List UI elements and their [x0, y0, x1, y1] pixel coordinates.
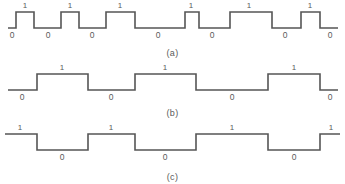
bit-label-c-1: 0: [60, 153, 65, 162]
bit-label-b-5: 1: [292, 64, 296, 72]
bit-label-a-5: 1: [118, 2, 122, 10]
bit-label-a-4: 0: [90, 31, 95, 40]
bit-label-a-8: 0: [210, 31, 215, 40]
bit-label-a-6: 0: [156, 31, 161, 40]
bit-label-a-9: 1: [247, 2, 251, 10]
bit-label-b-0: 0: [20, 93, 25, 102]
bit-label-a-0: 0: [10, 31, 15, 40]
bit-label-a-11: 1: [308, 2, 312, 10]
waveform-figure: 0101010101010 0101010 1010101 (a) (b) (c…: [0, 0, 345, 184]
bit-label-c-0: 1: [18, 124, 22, 132]
bit-label-a-1: 1: [23, 2, 27, 10]
caption-a: (a): [0, 48, 345, 58]
bit-label-c-6: 1: [329, 124, 333, 132]
bit-label-a-7: 1: [189, 2, 193, 10]
bit-label-a-10: 0: [283, 31, 288, 40]
bit-label-b-4: 0: [230, 93, 235, 102]
bit-label-b-3: 1: [163, 64, 167, 72]
bit-label-c-3: 0: [163, 153, 168, 162]
bit-label-b-2: 0: [109, 93, 114, 102]
waveform-c-path: [5, 134, 340, 150]
bit-label-b-6: 0: [328, 93, 333, 102]
bit-label-a-3: 1: [68, 2, 72, 10]
bit-label-b-1: 1: [60, 64, 64, 72]
bit-label-c-4: 1: [230, 124, 234, 132]
bit-label-a-12: 0: [328, 31, 333, 40]
waveform-a-path: [8, 12, 338, 28]
bit-label-c-2: 1: [109, 124, 113, 132]
caption-c: (c): [0, 172, 345, 182]
caption-b: (b): [0, 108, 345, 118]
waveform-a-plot: [0, 0, 345, 44]
bit-label-c-5: 0: [292, 153, 297, 162]
bit-label-a-2: 0: [46, 31, 51, 40]
waveform-b-path: [8, 74, 338, 90]
